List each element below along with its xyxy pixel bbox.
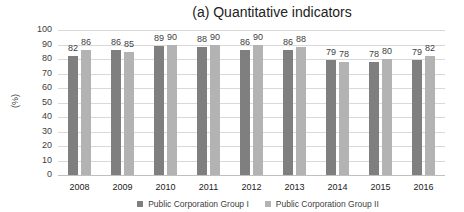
legend-item-group-2: Public Corporation Group II [265, 199, 379, 209]
y-tick-label: 90 [24, 39, 52, 49]
bar-2014-series-1 [326, 60, 336, 175]
bar-2015-series-2 [382, 59, 392, 175]
x-tick-label: 2014 [318, 182, 358, 192]
y-axis-label: (%) [10, 94, 20, 108]
y-tick-label: 100 [24, 24, 52, 34]
bar-2012-series-2 [253, 45, 263, 176]
bar-2009-series-1 [111, 50, 121, 175]
legend: Public Corporation Group I Public Corpor… [26, 199, 464, 209]
data-label: 88 [291, 34, 311, 44]
data-label: 82 [420, 43, 440, 53]
x-tick-label: 2016 [404, 182, 444, 192]
legend-swatch-group-1 [137, 201, 143, 207]
data-label: 80 [377, 46, 397, 56]
x-tick-label: 2015 [361, 182, 401, 192]
bar-2011-series-1 [197, 47, 207, 175]
y-tick-label: 50 [24, 97, 52, 107]
bar-2010-series-1 [154, 46, 164, 175]
chart-title: (a) Quantitative indicators [40, 4, 464, 20]
bar-2009-series-2 [124, 52, 134, 175]
x-tick-label: 2011 [189, 182, 229, 192]
y-tick-label: 20 [24, 140, 52, 150]
legend-label-group-1: Public Corporation Group I [148, 199, 249, 209]
x-tick-label: 2013 [275, 182, 315, 192]
x-tick-label: 2008 [60, 182, 100, 192]
y-tick-label: 10 [24, 155, 52, 165]
bar-2014-series-2 [339, 62, 349, 175]
data-label: 78 [334, 49, 354, 59]
y-tick-label: 80 [24, 53, 52, 63]
y-tick-label: 60 [24, 82, 52, 92]
bar-2013-series-2 [296, 47, 306, 175]
data-label: 86 [76, 37, 96, 47]
y-tick-label: 40 [24, 111, 52, 121]
legend-label-group-2: Public Corporation Group II [276, 199, 379, 209]
bar-2016-series-2 [425, 56, 435, 175]
data-label: 90 [205, 32, 225, 42]
bar-2008-series-1 [68, 56, 78, 175]
y-tick-label: 0 [24, 169, 52, 179]
bar-2008-series-2 [81, 50, 91, 175]
y-tick-label: 70 [24, 68, 52, 78]
bar-2011-series-2 [210, 45, 220, 176]
bar-2010-series-2 [167, 45, 177, 176]
bar-2012-series-1 [240, 50, 250, 175]
bar-2016-series-1 [412, 60, 422, 175]
x-tick-label: 2010 [146, 182, 186, 192]
x-tick-label: 2009 [103, 182, 143, 192]
bar-2015-series-1 [369, 62, 379, 175]
data-label: 85 [119, 39, 139, 49]
y-tick-label: 30 [24, 126, 52, 136]
legend-item-group-1: Public Corporation Group I [137, 199, 249, 209]
bar-2013-series-1 [283, 50, 293, 175]
x-axis-line [58, 175, 445, 176]
data-label: 90 [162, 32, 182, 42]
x-tick-label: 2012 [232, 182, 272, 192]
data-label: 90 [248, 32, 268, 42]
legend-swatch-group-2 [265, 201, 271, 207]
